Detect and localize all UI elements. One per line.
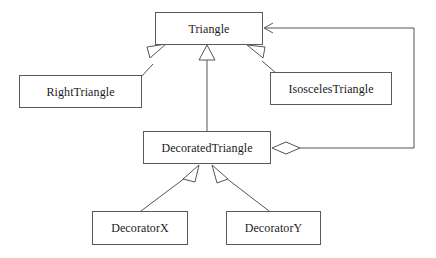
generalization-arrowhead-decorator-y [212,165,228,183]
class-box-triangle[interactable]: Triangle [155,12,263,45]
class-box-decorator-x[interactable]: DecoratorX [92,211,188,245]
class-box-decorator-y[interactable]: DecoratorY [226,211,321,245]
edge-decorator-x-to-decorated-triangle [141,165,199,211]
edge-line-right-triangle [142,64,153,76]
edge-decorator-y-to-decorated-triangle [212,165,269,211]
class-label-triangle: Triangle [188,22,229,36]
aggregation-diamond [272,142,300,154]
edge-isosceles-triangle-to-triangle [247,45,276,73]
generalization-arrowhead-right-triangle [147,44,166,58]
generalization-arrowhead-isosceles-triangle [247,45,265,58]
class-label-decorator-x: DecoratorX [111,221,169,235]
class-label-decorator-y: DecoratorY [245,221,303,235]
generalization-arrowhead-decorator-x [183,165,199,182]
edge-line-decorator-x [141,178,185,211]
class-box-right-triangle[interactable]: RightTriangle [19,75,142,108]
generalization-arrowhead-decorated-triangle [199,45,215,60]
edge-right-triangle-to-triangle [142,44,166,76]
edge-line-decorator-y [226,178,269,211]
class-label-right-triangle: RightTriangle [46,85,114,99]
edge-decorated-triangle-to-triangle [199,45,215,131]
class-box-decorated-triangle[interactable]: DecoratedTriangle [143,131,271,164]
class-label-decorated-triangle: DecoratedTriangle [161,141,252,155]
uml-class-diagram: Triangle ============ --> Triangle Right… [0,0,436,258]
class-box-isosceles-triangle[interactable]: IsoscelesTriangle [270,72,392,105]
class-label-isosceles-triangle: IsoscelesTriangle [288,82,373,96]
